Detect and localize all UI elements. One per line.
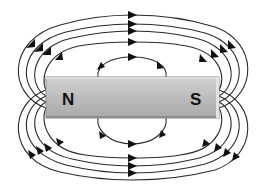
arrow-icon <box>26 39 35 48</box>
arrow-icon <box>128 162 137 170</box>
arrow-icon <box>128 53 137 61</box>
arrow-icon <box>128 38 137 46</box>
arrow-icon <box>128 169 137 177</box>
arrow-icon <box>128 20 137 28</box>
arrow-icon <box>128 140 137 148</box>
north-pole-label: N <box>62 90 74 109</box>
magnet-right-edge <box>216 77 219 118</box>
arrow-icon <box>97 62 105 70</box>
arrow-icon <box>199 54 207 62</box>
field-line-bottom-5 <box>98 118 166 144</box>
arrow-icon <box>214 143 222 152</box>
south-pole-label: S <box>190 90 201 109</box>
arrow-icon <box>34 43 43 52</box>
bar-magnet: N S <box>46 77 219 118</box>
field-line-top-5 <box>98 57 166 77</box>
arrow-icon <box>128 154 137 162</box>
arrows-bottom <box>28 130 240 177</box>
magnet-bottom-edge <box>46 116 219 118</box>
arrow-icon <box>28 150 36 159</box>
bar-magnet-field-diagram: N S <box>0 0 262 194</box>
arrow-icon <box>202 139 210 147</box>
arrow-icon <box>211 49 219 58</box>
arrow-icon <box>128 27 137 35</box>
arrow-icon <box>36 146 44 155</box>
arrow-icon <box>157 61 164 69</box>
magnet-top-edge <box>46 77 219 79</box>
arrow-icon <box>128 11 137 19</box>
arrow-icon <box>228 40 236 49</box>
